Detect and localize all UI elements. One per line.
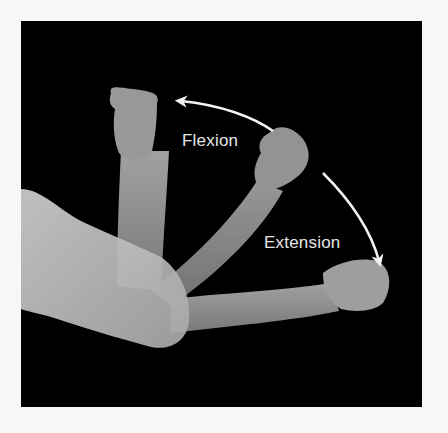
flexion-arrow bbox=[181, 101, 273, 131]
extension-label: Extension bbox=[264, 233, 340, 253]
arm-illustration bbox=[21, 21, 422, 407]
photo-frame: Flexion Extension bbox=[21, 21, 422, 407]
flexion-label: Flexion bbox=[182, 131, 238, 151]
